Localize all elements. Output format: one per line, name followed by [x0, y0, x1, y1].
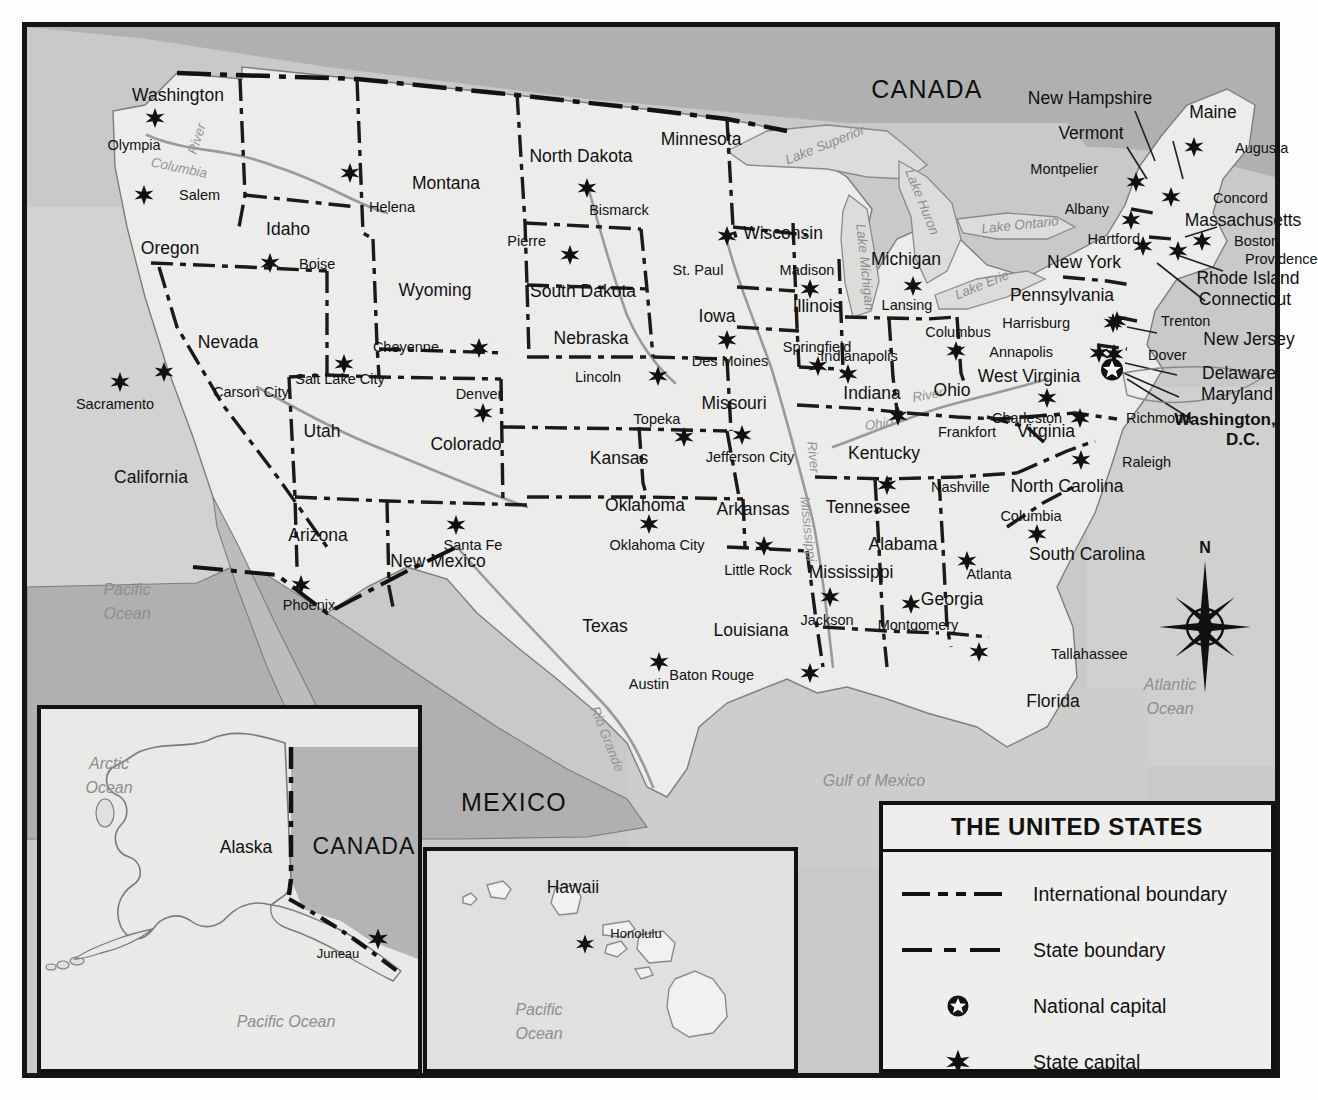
international-boundary-icon [883, 889, 1033, 899]
alaska-inset-graphic [41, 709, 418, 1069]
legend-label-international-boundary: International boundary [1033, 883, 1227, 906]
legend-row-state-capital: State capital [883, 1034, 1271, 1090]
legend-title: THE UNITED STATES [883, 805, 1271, 852]
map-frame: CANADA MEXICO Pacific Ocean Atlantic Oce… [22, 22, 1280, 1078]
hawaii-inset-graphic [427, 851, 794, 1069]
alaska-inset: Alaska CANADA Arctic Ocean Pacific Ocean… [37, 705, 422, 1073]
legend-row-international-boundary: International boundary [883, 866, 1271, 922]
map-legend: THE UNITED STATES International boundary [879, 801, 1275, 1073]
legend-label-national-capital: National capital [1033, 995, 1166, 1018]
hawaii-inset: Hawaii Honolulu Pacific Ocean [423, 847, 798, 1073]
legend-row-state-boundary: State boundary [883, 922, 1271, 978]
legend-row-national-capital: National capital [883, 978, 1271, 1034]
national-capital-icon [883, 993, 1033, 1019]
compass-rose-icon [1155, 557, 1255, 697]
lake-ontario [957, 213, 1075, 239]
state-capital-icon [883, 1048, 1033, 1076]
legend-label-state-capital: State capital [1033, 1051, 1140, 1074]
state-boundary-icon [883, 945, 1033, 955]
legend-label-state-boundary: State boundary [1033, 939, 1165, 962]
